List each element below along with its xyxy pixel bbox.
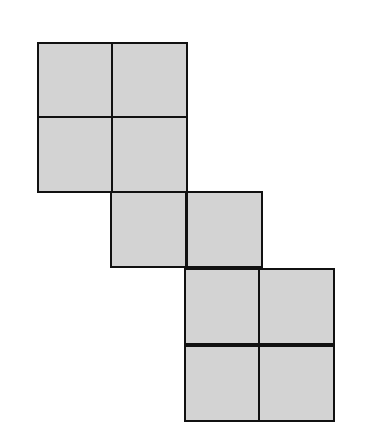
grid-square	[110, 191, 187, 268]
grid-square	[111, 116, 188, 193]
grid-square	[37, 42, 114, 119]
grid-square	[111, 42, 188, 119]
grid-square	[184, 345, 261, 422]
grid-square	[258, 345, 335, 422]
grid-square	[258, 268, 335, 345]
square-grid-diagram	[0, 0, 366, 445]
grid-square	[186, 191, 263, 268]
grid-square	[184, 268, 261, 345]
grid-square	[37, 116, 114, 193]
